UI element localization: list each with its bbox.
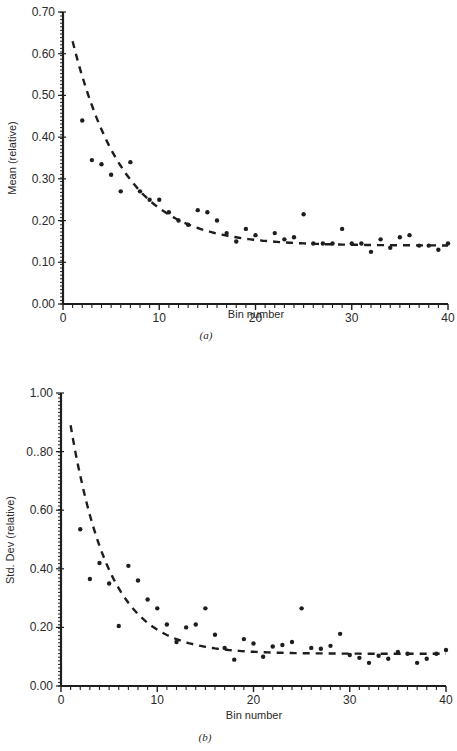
x-tick-label: 0 (58, 693, 65, 707)
y-tick-label: 0.50 (32, 88, 56, 102)
x-axis-title-a: Bin number (228, 308, 285, 320)
y-tick-label: 0.60 (32, 47, 56, 61)
data-point (184, 625, 188, 629)
x-tick-label: 10 (153, 311, 167, 325)
data-point (126, 564, 130, 568)
x-tick-label: 30 (345, 311, 359, 325)
fit-curve-b (71, 425, 446, 654)
data-point (167, 210, 171, 214)
data-point (155, 606, 159, 610)
y-tick-label: 0.70 (32, 5, 56, 19)
x-tick-label: 30 (343, 693, 357, 707)
data-points-b (78, 527, 448, 665)
y-tick-label: 0.00 (32, 297, 56, 311)
y-tick-label: 0.40 (30, 562, 54, 576)
data-point (224, 231, 228, 235)
data-point (234, 239, 238, 243)
data-point (261, 655, 265, 659)
data-point (427, 243, 431, 247)
data-point (232, 657, 236, 661)
caption-b: (b) (199, 731, 212, 744)
y-tick-label: 0..80 (26, 445, 53, 459)
data-point (165, 622, 169, 626)
data-point (309, 646, 313, 650)
data-point (244, 227, 248, 231)
data-point (119, 189, 123, 193)
data-point (348, 653, 352, 657)
data-point (299, 606, 303, 610)
data-point (88, 577, 92, 581)
data-point (367, 661, 371, 665)
data-point (446, 241, 450, 245)
data-point (376, 654, 380, 658)
y-tick-label: 0.60 (30, 503, 54, 517)
data-point (78, 527, 82, 531)
chart-mean-relative: 0.000.100.200.300.400.500.600.7001020304… (6, 5, 455, 342)
data-point (222, 646, 226, 650)
data-point (80, 118, 84, 122)
data-point (369, 250, 373, 254)
data-point (145, 597, 149, 601)
x-tick-label: 10 (151, 693, 165, 707)
chart-std-dev-relative: 0.000.200.400.600..801.00010203040 Std. … (4, 386, 453, 744)
y-tick-label: 1.00 (30, 386, 54, 400)
fit-curve-path (73, 41, 448, 245)
x-tick-label: 40 (439, 693, 453, 707)
data-point (147, 198, 151, 202)
data-point (436, 248, 440, 252)
data-point (290, 640, 294, 644)
y-axis-title-a: Mean (relative) (6, 121, 18, 194)
figure: 0.000.100.200.300.400.500.600.7001020304… (0, 0, 457, 751)
y-tick-label: 0.30 (32, 172, 56, 186)
data-point (396, 650, 400, 654)
x-tick-label: 40 (441, 311, 455, 325)
y-tick-label: 0.20 (32, 214, 56, 228)
y-tick-label: 0.00 (30, 679, 54, 693)
data-point (417, 243, 421, 247)
data-point (321, 241, 325, 245)
data-point (434, 652, 438, 656)
data-point (196, 208, 200, 212)
data-point (107, 581, 111, 585)
data-point (253, 233, 257, 237)
data-point (109, 172, 113, 176)
caption-a: (a) (200, 329, 213, 342)
data-point (415, 661, 419, 665)
data-point (213, 633, 217, 637)
data-point (292, 235, 296, 239)
data-point (357, 656, 361, 660)
data-point (359, 241, 363, 245)
data-point (90, 158, 94, 162)
axes-a: 0.000.100.200.300.400.500.600.7001020304… (32, 5, 455, 325)
data-point (251, 641, 255, 645)
data-point (407, 233, 411, 237)
data-point (203, 606, 207, 610)
y-axis-title-b: Std. Dev (relative) (4, 496, 16, 584)
data-point (271, 644, 275, 648)
data-point (215, 218, 219, 222)
fit-curve-a (73, 41, 448, 245)
data-point (138, 189, 142, 193)
data-point (388, 245, 392, 249)
data-point (425, 657, 429, 661)
y-tick-label: 0.20 (30, 620, 54, 634)
data-point (280, 643, 284, 647)
data-point (194, 622, 198, 626)
data-point (186, 223, 190, 227)
data-point (136, 578, 140, 582)
data-point (174, 640, 178, 644)
data-point (242, 637, 246, 641)
data-point (99, 162, 103, 166)
data-point (378, 237, 382, 241)
data-point (350, 241, 354, 245)
data-point (405, 652, 409, 656)
data-point (340, 227, 344, 231)
x-axis-title-b: Bin number (226, 709, 283, 721)
data-point (117, 624, 121, 628)
x-tick-label: 20 (247, 693, 261, 707)
x-tick-label: 0 (60, 311, 67, 325)
data-point (273, 231, 277, 235)
data-point (205, 210, 209, 214)
data-point (386, 657, 390, 661)
data-point (328, 644, 332, 648)
